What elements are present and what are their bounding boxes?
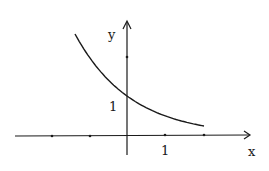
exponential-curve xyxy=(75,34,204,126)
graph-canvas xyxy=(0,0,269,171)
x-axis xyxy=(15,135,249,136)
x-axis-label: x xyxy=(248,145,255,158)
y-ticks xyxy=(126,56,129,59)
y-axis-label: y xyxy=(108,28,115,41)
x-tick-label: 1 xyxy=(161,144,169,157)
y-tick-label: 1 xyxy=(109,100,117,113)
